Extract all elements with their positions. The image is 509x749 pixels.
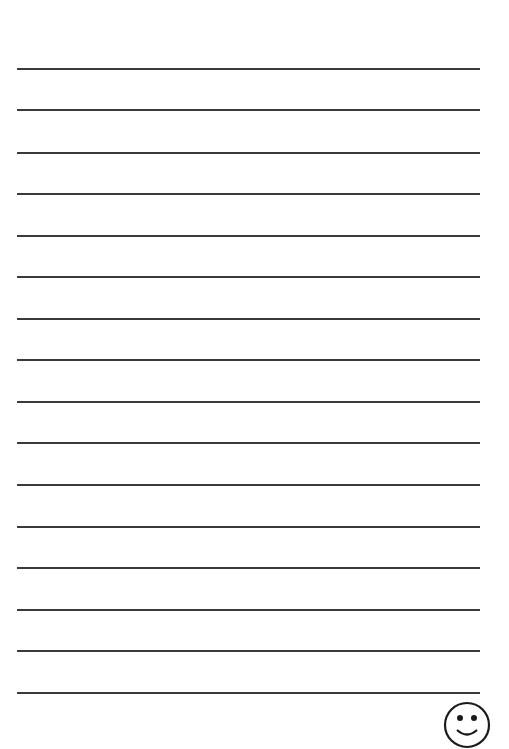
ruled-line bbox=[17, 152, 480, 154]
ruled-line bbox=[17, 692, 480, 694]
ruled-line bbox=[17, 68, 480, 70]
ruled-line bbox=[17, 193, 480, 195]
ruled-line bbox=[17, 442, 480, 444]
ruled-line bbox=[17, 401, 480, 403]
ruled-line bbox=[17, 609, 480, 611]
ruled-line bbox=[17, 567, 480, 569]
smiley-face-icon bbox=[443, 701, 491, 749]
ruled-line bbox=[17, 318, 480, 320]
ruled-line bbox=[17, 526, 480, 528]
ruled-line bbox=[17, 276, 480, 278]
ruled-line bbox=[17, 109, 480, 111]
ruled-line bbox=[17, 359, 480, 361]
ruled-line bbox=[17, 235, 480, 237]
ruled-line bbox=[17, 650, 480, 652]
ruled-line bbox=[17, 484, 480, 486]
